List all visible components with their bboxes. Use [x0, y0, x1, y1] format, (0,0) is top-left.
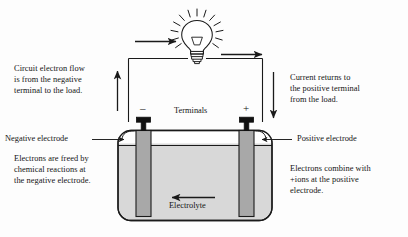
- negative-electrode-plate: [136, 131, 151, 217]
- note-electrons-combine: Electrons combine with +ions at the posi…: [290, 163, 400, 197]
- positive-electrode-plate: [239, 131, 254, 217]
- positive-terminal-sign: +: [243, 103, 249, 114]
- light-bulb-icon: [171, 9, 223, 64]
- battery-circuit-diagram: Circuit electron flow is from the negati…: [0, 0, 408, 237]
- label-negative-electrode: Negative electrode: [5, 134, 68, 144]
- note-electrons-freed: Electrons are freed by chemical reaction…: [14, 153, 126, 187]
- note-circuit-electron-flow: Circuit electron flow is from the negati…: [14, 63, 118, 97]
- label-terminals: Terminals: [174, 106, 207, 116]
- positive-terminal-stem: [244, 122, 249, 131]
- label-electrolyte: Electrolyte: [169, 201, 206, 211]
- note-current-returns: Current returns to the positive terminal…: [290, 72, 398, 106]
- negative-terminal-stem: [141, 122, 146, 131]
- positive-terminal-cap: [239, 117, 253, 122]
- negative-terminal-sign: –: [140, 103, 146, 114]
- negative-terminal-cap: [136, 117, 150, 122]
- terminal-posts: [136, 117, 253, 130]
- label-positive-electrode: Positive electrode: [297, 134, 357, 144]
